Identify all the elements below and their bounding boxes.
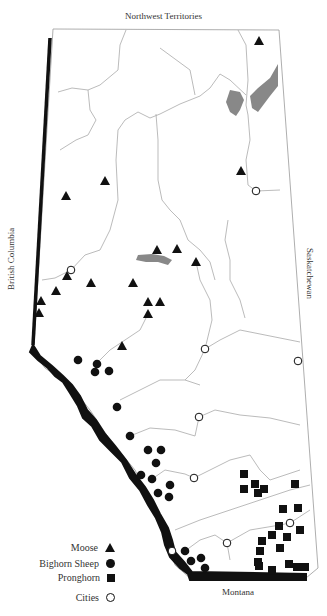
bighorn-sheep-marker (187, 557, 196, 566)
pronghorn-marker (256, 547, 264, 555)
bighorn-sheep-marker (144, 446, 153, 455)
city-marker (195, 413, 203, 421)
label-saskatchewan: Saskatchewan (305, 248, 315, 299)
bighorn-sheep-marker (165, 493, 174, 502)
bighorn-sheep-marker (74, 356, 83, 365)
filled-circle-icon (106, 559, 115, 568)
pronghorn-marker (240, 470, 248, 478)
pronghorn-marker (294, 504, 302, 512)
legend-pronghorn-label: Pronghorn (58, 572, 100, 583)
legend-moose-label: Moose (71, 542, 98, 553)
bighorn-sheep-marker (126, 432, 135, 441)
label-montana: Montana (222, 587, 254, 597)
legend-cities: Cities (76, 592, 115, 603)
city-marker (286, 519, 294, 527)
city-marker (201, 345, 209, 353)
legend-cities-label: Cities (76, 592, 99, 603)
bighorn-sheep-marker (181, 547, 190, 556)
city-marker (168, 547, 176, 555)
pronghorn-marker (258, 537, 266, 545)
label-british-columbia: British Columbia (6, 228, 16, 290)
label-northwest-territories: Northwest Territories (0, 11, 327, 21)
bighorn-sheep-marker (137, 471, 146, 480)
legend-bighorn-sheep: Bighorn Sheep (39, 558, 115, 569)
pronghorn-marker (268, 531, 276, 539)
bighorn-sheep-marker (152, 459, 161, 468)
triangle-icon (105, 543, 115, 552)
legend-pronghorn: Pronghorn (58, 572, 115, 583)
pronghorn-marker (279, 505, 287, 513)
pronghorn-marker (291, 480, 299, 488)
bighorn-sheep-marker (105, 367, 114, 376)
bighorn-sheep-marker (154, 489, 163, 498)
bighorn-sheep-marker (148, 475, 157, 484)
legend-moose: Moose (71, 542, 115, 553)
bighorn-sheep-marker (166, 481, 175, 490)
open-circle-icon (106, 593, 115, 602)
pronghorn-marker (268, 566, 276, 574)
pronghorn-marker (275, 522, 283, 530)
pronghorn-marker (276, 544, 284, 552)
city-marker (223, 539, 231, 547)
bighorn-sheep-marker (91, 368, 100, 377)
bighorn-sheep-marker (201, 564, 210, 573)
pronghorn-marker (301, 563, 309, 571)
city-marker (294, 357, 302, 365)
pronghorn-marker (251, 480, 259, 488)
pronghorn-marker (240, 485, 248, 493)
pronghorn-marker (283, 533, 291, 541)
legend-bighorn-sheep-label: Bighorn Sheep (39, 558, 99, 569)
pronghorn-marker (296, 526, 304, 534)
bighorn-sheep-marker (93, 360, 102, 369)
pronghorn-marker (285, 560, 293, 568)
pronghorn-marker (255, 562, 263, 570)
bighorn-sheep-marker (197, 554, 206, 563)
city-marker (252, 187, 260, 195)
pronghorn-marker (293, 563, 301, 571)
bighorn-sheep-marker (157, 446, 166, 455)
pronghorn-marker (260, 485, 268, 493)
bighorn-sheep-marker (113, 403, 122, 412)
alberta-map (0, 0, 327, 616)
city-marker (67, 266, 75, 274)
province-border (33, 29, 318, 578)
city-marker (190, 474, 198, 482)
square-icon (107, 574, 115, 582)
